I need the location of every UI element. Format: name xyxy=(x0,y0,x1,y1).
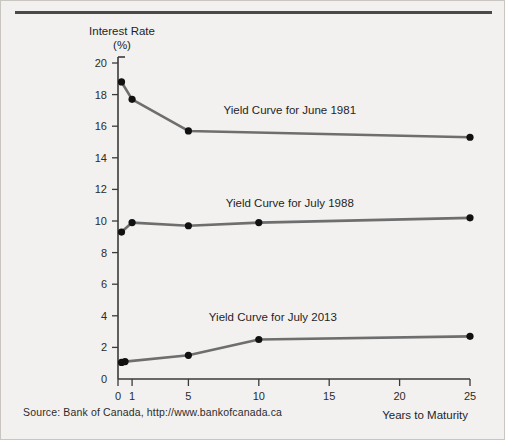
series-data-point xyxy=(118,228,125,235)
y-axis-tick-label: 18 xyxy=(95,89,107,101)
x-axis-tick-label: 25 xyxy=(464,390,476,402)
series-data-point xyxy=(466,134,473,141)
x-axis-tick-label: 20 xyxy=(393,390,405,402)
series-line xyxy=(122,218,470,232)
y-axis-tick-label: 12 xyxy=(95,183,107,195)
series-data-point xyxy=(185,127,192,134)
series-data-point xyxy=(466,333,473,340)
x-axis-title: Years to Maturity xyxy=(382,409,468,421)
series-group: Yield Curve for July 2013 xyxy=(118,311,474,366)
series-label: Yield Curve for June 1981 xyxy=(224,104,357,116)
series-data-point xyxy=(128,96,135,103)
series-data-point xyxy=(185,352,192,359)
y-axis-tick-label: 4 xyxy=(101,310,107,322)
series-label: Yield Curve for July 2013 xyxy=(209,311,337,323)
y-axis-tick-label: 20 xyxy=(95,57,107,69)
x-axis-tick-label: 1 xyxy=(129,390,135,402)
series-line xyxy=(122,336,470,362)
y-axis-tick-label: 8 xyxy=(101,247,107,259)
x-axis-tick-label: 0 xyxy=(115,390,121,402)
series-group: Yield Curve for July 1988 xyxy=(118,197,474,236)
y-axis-tick-label: 0 xyxy=(101,373,107,385)
y-axis-title: Interest Rate xyxy=(89,25,155,37)
series-data-point xyxy=(466,214,473,221)
yield-curve-chart: 0246810121416182001510152025Interest Rat… xyxy=(1,1,505,440)
chart-plot-area: 0246810121416182001510152025Interest Rat… xyxy=(1,1,505,440)
x-axis-tick-label: 15 xyxy=(323,390,335,402)
series-data-point xyxy=(128,219,135,226)
y-axis-tick-label: 2 xyxy=(101,341,107,353)
x-axis-tick-label: 5 xyxy=(185,390,191,402)
series-group: Yield Curve for June 1981 xyxy=(118,78,474,140)
x-axis-tick-label: 10 xyxy=(253,390,265,402)
series-label: Yield Curve for July 1988 xyxy=(226,197,354,209)
series-data-point xyxy=(121,358,128,365)
series-data-point xyxy=(255,336,262,343)
y-axis-tick-label: 14 xyxy=(95,152,107,164)
y-axis-tick-label: 6 xyxy=(101,278,107,290)
y-axis-unit-label: (%) xyxy=(113,39,131,51)
y-axis-tick-label: 10 xyxy=(95,215,107,227)
figure-container: 0246810121416182001510152025Interest Rat… xyxy=(0,0,505,440)
series-data-point xyxy=(185,222,192,229)
source-note: Source: Bank of Canada, http://www.banko… xyxy=(23,406,282,418)
series-data-point xyxy=(255,219,262,226)
y-axis-tick-label: 16 xyxy=(95,120,107,132)
series-data-point xyxy=(118,78,125,85)
